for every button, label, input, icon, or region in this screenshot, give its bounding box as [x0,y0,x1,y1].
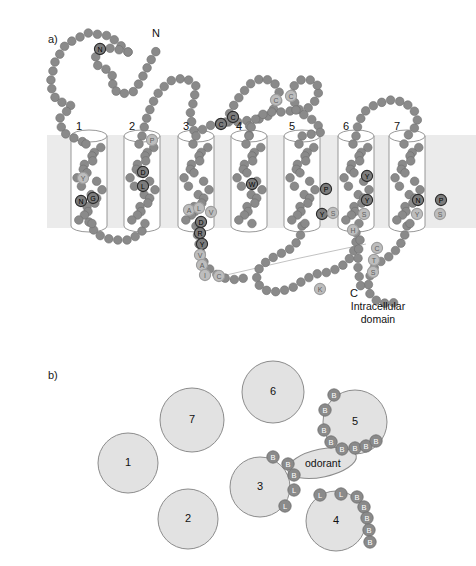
labeled-residue-S: S [327,207,338,218]
svg-text:D: D [140,169,145,176]
residue-bead [401,169,410,178]
labeled-residue-S: S [434,208,445,219]
svg-text:L: L [197,205,201,212]
residue-bead [413,116,422,125]
residue-bead [124,48,133,57]
residue-bead [112,87,121,96]
labeled-residue-H: H [347,224,358,235]
residue-bead [252,273,261,282]
residue-bead [75,216,84,225]
figure-canvas: NYNGPDLCCCCALVDRYVAICWPYSYYSHNPYSCTSK BB… [0,0,476,566]
residue-bead [140,123,149,132]
labeled-residue-Y: Y [77,172,88,183]
residue-bead [356,236,365,245]
residue-bead [246,79,255,88]
residue-bead [47,84,56,93]
svg-text:B: B [373,437,378,446]
residue-bead [191,82,200,91]
svg-text:B: B [363,442,368,451]
residue-bead [138,132,147,141]
residue-bead [240,86,249,95]
svg-text:L: L [292,486,296,495]
svg-text:Y: Y [365,197,370,204]
residue-bead [251,115,260,124]
residue-bead [352,132,361,141]
binding-residue-B: B [328,389,340,401]
residue-bead [49,67,58,76]
cross-section-number-6: 6 [270,385,276,397]
labeled-residue-K: K [314,283,325,294]
residue-bead [391,246,400,255]
residue-bead [259,110,268,119]
residue-bead [263,76,272,85]
residue-bead [195,157,204,166]
helix-number-4: 4 [236,120,242,132]
residue-bead [410,107,419,116]
svg-text:Y: Y [320,211,325,218]
residue-bead [102,65,111,74]
cross-section-number-4: 4 [333,514,339,526]
binding-residue-B: B [288,469,300,481]
labeled-residue-Y: Y [361,170,372,181]
residue-bead [110,35,119,44]
svg-text:B: B [352,444,357,453]
residue-bead [190,169,199,178]
svg-text:C: C [374,245,379,252]
residue-bead [141,219,150,228]
residue-bead [285,245,294,254]
cross-section-number-3: 3 [257,480,263,492]
residue-bead [410,124,419,133]
svg-text:C: C [216,273,221,280]
svg-text:Y: Y [365,173,370,180]
residue-bead [255,265,264,274]
residue-bead [313,270,322,279]
svg-text:H: H [350,227,355,234]
residue-bead [96,231,105,240]
residue-bead [354,263,363,272]
residue-bead [306,76,315,85]
c-terminus-label: C [350,287,358,299]
residue-bead [206,121,215,130]
residue-bead [144,199,153,208]
panel-a-label: a) [48,33,58,45]
svg-text:P: P [150,137,155,144]
labeled-residue-Y: Y [316,208,327,219]
residue-bead [307,115,316,124]
binding-residue-B: B [370,435,382,447]
residue-bead [189,140,198,149]
residue-bead [205,185,214,194]
binding-residue-L: L [335,488,347,500]
labeled-residue-L: L [137,180,148,191]
labeled-residue-P: P [435,194,446,205]
labeled-residue-N: N [412,194,423,205]
residue-bead [128,216,137,225]
labeled-residue-Y: Y [361,194,372,205]
residue-bead [395,182,404,191]
svg-text:C: C [218,121,223,128]
residue-bead [184,182,193,191]
residue-bead [88,219,97,228]
n-terminus-label: N [152,27,160,39]
residue-bead [292,239,301,248]
residue-bead [129,87,138,96]
labeled-residue-N: N [75,195,86,206]
residue-bead [290,81,299,90]
residue-bead [184,76,193,85]
residue-bead [354,254,363,263]
residue-bead [355,157,364,166]
svg-text:W: W [249,181,256,188]
cross-section-number-5: 5 [352,415,358,427]
binding-residue-B: B [282,458,294,470]
svg-text:S: S [362,211,367,218]
residue-bead [243,169,252,178]
svg-text:L: L [283,502,287,511]
residue-bead [115,45,124,54]
binding-residue-L: L [288,484,300,496]
residue-bead [406,157,415,166]
caption-line-2: domain [361,313,395,325]
residue-bead [297,76,306,85]
residue-bead [51,58,60,67]
residue-bead [365,185,374,194]
residue-bead [105,235,114,244]
svg-text:B: B [366,526,371,535]
